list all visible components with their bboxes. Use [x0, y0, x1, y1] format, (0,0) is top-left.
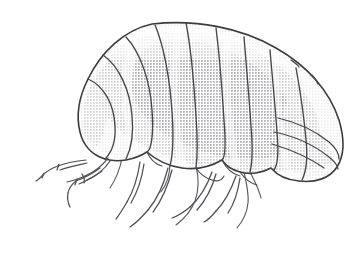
illustration-canvas: Isopod (woodlouse) lateral view line dra… [0, 0, 362, 274]
isopod-illustration [0, 0, 362, 274]
